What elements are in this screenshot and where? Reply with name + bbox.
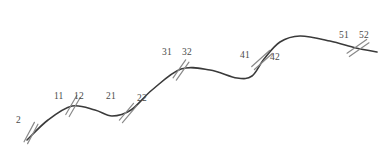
- curve-group: [27, 36, 377, 140]
- node-label-12: 12: [74, 91, 84, 101]
- node-label-11: 11: [54, 91, 64, 101]
- tick-mark-pair: [173, 60, 189, 80]
- node-label-42: 42: [270, 52, 280, 62]
- diagram-canvas: 211122122313241425152: [0, 0, 387, 161]
- tick-mark-line: [28, 124, 38, 143]
- node-label-41: 41: [240, 50, 250, 60]
- tick-mark-pair: [24, 122, 38, 143]
- node-label-2: 2: [16, 115, 21, 125]
- node-label-32: 32: [182, 47, 192, 57]
- node-label-51: 51: [339, 30, 349, 40]
- tick-mark-pair: [119, 103, 136, 122]
- node-label-21: 21: [106, 91, 116, 101]
- curve-diagram-svg: [0, 0, 387, 161]
- node-label-52: 52: [359, 30, 369, 40]
- node-label-31: 31: [162, 47, 172, 57]
- main-curve-path: [27, 36, 377, 140]
- node-label-22: 22: [137, 93, 147, 103]
